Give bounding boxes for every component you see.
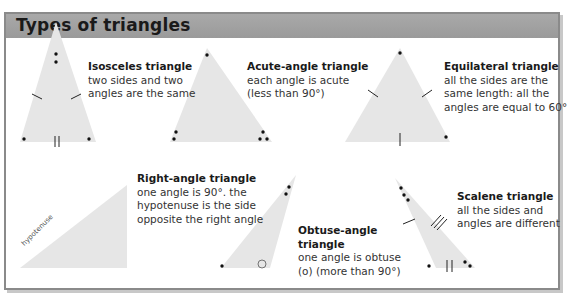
- obtuse-desc-1: one angle is obtuse: [298, 251, 401, 265]
- obtuse-title-2: triangle: [298, 238, 401, 252]
- isosceles-caption: Isosceles triangle two sides and two ang…: [88, 60, 195, 101]
- acute-desc-2: (less than 90°): [247, 87, 368, 101]
- isosceles-desc-1: two sides and two: [88, 74, 195, 88]
- scalene-desc-2: angles are different: [457, 217, 560, 231]
- equilateral-title: Equilateral triangle: [444, 60, 567, 74]
- scalene-caption: Scalene triangle all the sides and angle…: [457, 190, 560, 231]
- obtuse-title: Obtuse-angle: [298, 224, 401, 238]
- scalene-desc-1: all the sides and: [457, 204, 560, 218]
- right-desc-2: hypotenuse is the side: [137, 199, 263, 213]
- acute-caption: Acute-angle triangle each angle is acute…: [247, 60, 368, 101]
- equilateral-desc-3: angles are equal to 60°: [444, 101, 567, 115]
- triangle-diagrams: [0, 0, 583, 296]
- equilateral-caption: Equilateral triangle all the sides are t…: [444, 60, 567, 114]
- right-desc-3: opposite the right angle: [137, 213, 263, 227]
- isosceles-shape: [20, 22, 96, 142]
- isosceles-title: Isosceles triangle: [88, 60, 195, 74]
- right-title: Right-angle triangle: [137, 172, 263, 186]
- obtuse-caption: Obtuse-angle triangle one angle is obtus…: [298, 224, 401, 278]
- obtuse-desc-2: (o) (more than 90°): [298, 265, 401, 279]
- equilateral-desc-2: same length: all the: [444, 87, 567, 101]
- acute-desc-1: each angle is acute: [247, 74, 368, 88]
- isosceles-desc-2: angles are the same: [88, 87, 195, 101]
- right-caption: Right-angle triangle one angle is 90°. t…: [137, 172, 263, 226]
- scalene-title: Scalene triangle: [457, 190, 560, 204]
- acute-title: Acute-angle triangle: [247, 60, 368, 74]
- right-desc-1: one angle is 90°. the: [137, 186, 263, 200]
- equilateral-desc-1: all the sides are the: [444, 74, 567, 88]
